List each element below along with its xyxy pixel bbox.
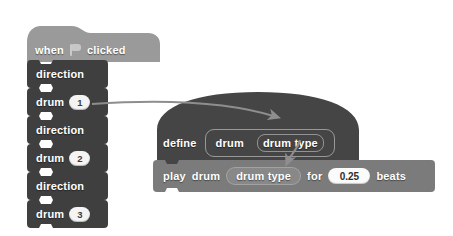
- for-label: for: [307, 170, 322, 182]
- direction-block-2[interactable]: direction: [27, 116, 108, 144]
- beats-label: beats: [376, 170, 406, 182]
- play-label: play: [163, 170, 186, 182]
- block-label: drum: [36, 96, 64, 108]
- drum-number-input[interactable]: 1: [69, 95, 90, 110]
- play-drum-block[interactable]: play drum drum type for 0.25 beats: [153, 160, 435, 192]
- green-flag-icon: [69, 43, 82, 57]
- drum-block-2[interactable]: drum 2: [27, 144, 108, 172]
- custom-block-prototype[interactable]: drum drum type: [205, 129, 335, 157]
- drum-block-1[interactable]: drum 1: [27, 88, 108, 116]
- beats-number-input[interactable]: 0.25: [328, 168, 370, 184]
- argument-label: drum type: [236, 170, 291, 182]
- drum-number-input[interactable]: 3: [69, 207, 90, 222]
- block-label: drum: [36, 208, 64, 220]
- parameter-label: drum type: [263, 137, 318, 149]
- when-flag-clicked-hat-block[interactable]: when clicked: [27, 26, 160, 62]
- block-stack: direction drum 1 direction: [27, 60, 108, 228]
- block-label: direction: [36, 180, 84, 192]
- parameter-drum-type[interactable]: drum type: [257, 134, 324, 152]
- drum-label: drum: [192, 170, 220, 182]
- block-label: drum: [36, 152, 64, 164]
- define-custom-block-hat[interactable]: define drum drum type: [153, 90, 363, 166]
- block-label: direction: [36, 68, 84, 80]
- clicked-label: clicked: [87, 44, 126, 56]
- custom-block-name-label: drum: [216, 137, 244, 149]
- direction-block-3[interactable]: direction: [27, 172, 108, 200]
- drum-number-input[interactable]: 2: [69, 151, 90, 166]
- block-label: direction: [36, 124, 84, 136]
- define-keyword-label: define: [163, 137, 197, 149]
- direction-block-1[interactable]: direction: [27, 60, 108, 88]
- drum-type-argument[interactable]: drum type: [226, 167, 301, 185]
- when-label: when: [35, 44, 64, 56]
- script-canvas: when clicked direction drum 1: [0, 0, 453, 236]
- drum-block-3[interactable]: drum 3: [27, 200, 108, 228]
